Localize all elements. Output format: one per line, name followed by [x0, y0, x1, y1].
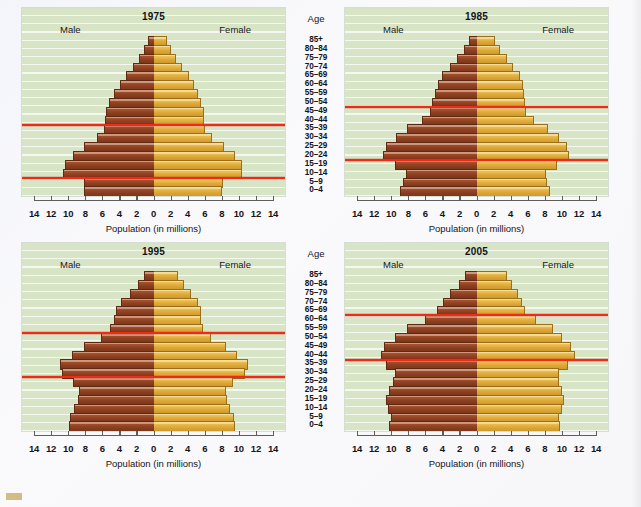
axis-tick-label: 2: [491, 443, 496, 454]
axis-ticklabels-1975: 141210864202468101214: [22, 208, 285, 222]
axis-tick-label: 8: [219, 443, 224, 454]
age-list-bottom: 85+80–8475–7970–7465–6960–6455–5950–5445…: [287, 271, 345, 430]
axis-tick: [408, 196, 409, 201]
panel-title-1985: 1985: [345, 11, 608, 22]
axis-tick-label: 12: [46, 208, 56, 219]
axis-tick-label: 12: [251, 208, 261, 219]
axis-tick: [528, 196, 529, 201]
female-label-1975: Female: [219, 24, 251, 35]
axis-tick: [102, 196, 103, 201]
axis-tick-label: 10: [557, 443, 567, 454]
pyramid-row: [345, 271, 608, 280]
pyramid-row: [22, 107, 285, 116]
axis-tick: [425, 196, 426, 201]
pyramid-row: [22, 124, 285, 133]
axis-tick: [51, 431, 52, 436]
bars-2005: [345, 271, 608, 430]
panel-2005: 2005 Male Female 141210864202468101214 P…: [345, 243, 610, 475]
axis-tick: [171, 431, 172, 436]
axis-tick: [119, 196, 120, 201]
axis-tick: [256, 196, 257, 201]
pyramid-row: [345, 36, 608, 45]
axis-tick: [34, 196, 35, 201]
axis-tick: [68, 196, 69, 201]
axis-tick: [442, 196, 443, 201]
axis-tick: [357, 196, 358, 201]
male-label-2005: Male: [383, 259, 404, 270]
axis-tick: [511, 431, 512, 436]
axis-1995: [22, 431, 285, 443]
axis-tick-label: 12: [574, 443, 584, 454]
plot-area-1995: 1995 Male Female: [22, 243, 285, 431]
axis-tick-label: 6: [423, 208, 428, 219]
bars-1975: [22, 36, 285, 195]
axis-tick: [102, 431, 103, 436]
plot-area-2005: 2005 Male Female: [345, 243, 608, 431]
axis-tick: [51, 196, 52, 201]
pyramid-row: [345, 359, 608, 368]
axis-tick-label: 14: [29, 443, 39, 454]
axis-1975: [22, 196, 285, 208]
pyramid-row: [22, 133, 285, 142]
pyramid-row: [22, 54, 285, 63]
axis-tick-label: 8: [406, 208, 411, 219]
pyramid-row: [22, 280, 285, 289]
panel-1985: 1985 Male Female 141210864202468101214 P…: [345, 8, 610, 240]
pyramid-row: [22, 80, 285, 89]
bar-male: [69, 421, 155, 431]
pyramid-row: [345, 395, 608, 404]
axis-tick: [188, 196, 189, 201]
pyramid-row: [345, 169, 608, 178]
pyramid-row: [22, 98, 285, 107]
axis-tick-label: 14: [268, 208, 278, 219]
axis-tick-label: 10: [63, 208, 73, 219]
female-label-1985: Female: [542, 24, 574, 35]
axis-tick: [136, 431, 137, 436]
pyramid-row: [345, 186, 608, 195]
axis-tick: [34, 431, 35, 436]
axis-tick-label: 12: [251, 443, 261, 454]
axis-tick: [119, 431, 120, 436]
axis-tick: [494, 196, 495, 201]
age-header-top: Age: [287, 13, 345, 24]
axis-tick-label: 0: [151, 208, 156, 219]
axis-title-1985: Population (in millions): [345, 223, 608, 234]
pyramid-row: [22, 36, 285, 45]
axis-tick: [171, 196, 172, 201]
axis-tick: [85, 431, 86, 436]
axis-tick-label: 10: [234, 443, 244, 454]
axis-tick: [256, 431, 257, 436]
pyramid-row: [22, 160, 285, 169]
axis-tick: [442, 431, 443, 436]
axis-tick-label: 4: [117, 443, 122, 454]
axis-tick: [154, 196, 155, 201]
pyramid-row: [345, 160, 608, 169]
baby-boom-reference-line: [22, 124, 285, 126]
axis-tick: [136, 196, 137, 201]
axis-tick: [357, 431, 358, 436]
axis-tick: [494, 431, 495, 436]
axis-tick-label: 4: [117, 208, 122, 219]
age-column-top: Age 85+80–8475–7970–7465–6960–6455–5950–…: [287, 8, 345, 240]
pyramid-row: [345, 142, 608, 151]
axis-tick-label: 2: [457, 443, 462, 454]
pyramid-row: [22, 178, 285, 187]
pyramid-row: [22, 342, 285, 351]
bar-male: [84, 186, 155, 196]
axis-tick-label: 6: [202, 208, 207, 219]
axis-tick: [596, 431, 597, 436]
bar-male: [389, 421, 477, 431]
pyramid-row: [345, 386, 608, 395]
pyramid-row: [22, 404, 285, 413]
axis-tick-label: 8: [542, 443, 547, 454]
axis-tick: [273, 431, 274, 436]
axis-title-1975: Population (in millions): [22, 223, 285, 234]
pyramid-row: [345, 54, 608, 63]
axis-tick: [562, 196, 563, 201]
pyramid-row: [22, 351, 285, 360]
axis-tick-label: 6: [525, 208, 530, 219]
pyramid-row: [345, 421, 608, 430]
axis-tick-label: 10: [63, 443, 73, 454]
plot-area-1975: 1975 Male Female: [22, 8, 285, 196]
axis-tick: [511, 196, 512, 201]
